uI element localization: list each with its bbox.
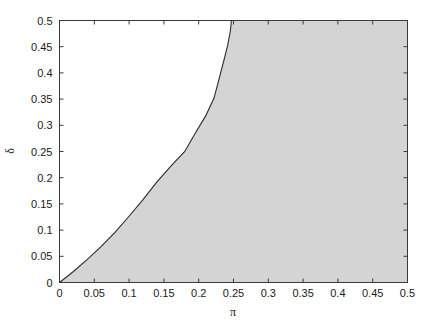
x-tick-label: 0.4 [330, 287, 345, 299]
x-tick-label: 0.5 [400, 287, 415, 299]
y-tick-label: 0.05 [31, 250, 52, 262]
x-tick-label: 0.1 [121, 287, 136, 299]
y-axis-label: δ [3, 148, 17, 154]
x-tick-label: 0.15 [153, 287, 174, 299]
y-tick-label: 0.35 [31, 93, 52, 105]
y-tick-label: 0.4 [37, 67, 52, 79]
x-tick-label: 0.35 [292, 287, 313, 299]
y-tick-label: 0.15 [31, 198, 52, 210]
chart-figure: 00.050.10.150.20.250.30.350.40.450.5 00.… [0, 0, 428, 324]
y-tick-label: 0.25 [31, 146, 52, 158]
x-tick-label: 0 [56, 287, 62, 299]
plot-canvas: 00.050.10.150.20.250.30.350.40.450.5 00.… [0, 0, 428, 324]
y-tick-label: 0.5 [37, 15, 52, 27]
x-tick-label: 0.25 [223, 287, 244, 299]
x-tick-label: 0.45 [362, 287, 383, 299]
x-axis-label: π [230, 305, 236, 319]
x-tick-label: 0.3 [261, 287, 276, 299]
x-tick-label: 0.2 [191, 287, 206, 299]
y-tick-label: 0.3 [37, 119, 52, 131]
y-tick-label: 0.2 [37, 172, 52, 184]
y-tick-label: 0.1 [37, 224, 52, 236]
x-tick-label: 0.05 [84, 287, 105, 299]
y-tick-label: 0 [46, 277, 52, 289]
y-tick-label: 0.45 [31, 41, 52, 53]
